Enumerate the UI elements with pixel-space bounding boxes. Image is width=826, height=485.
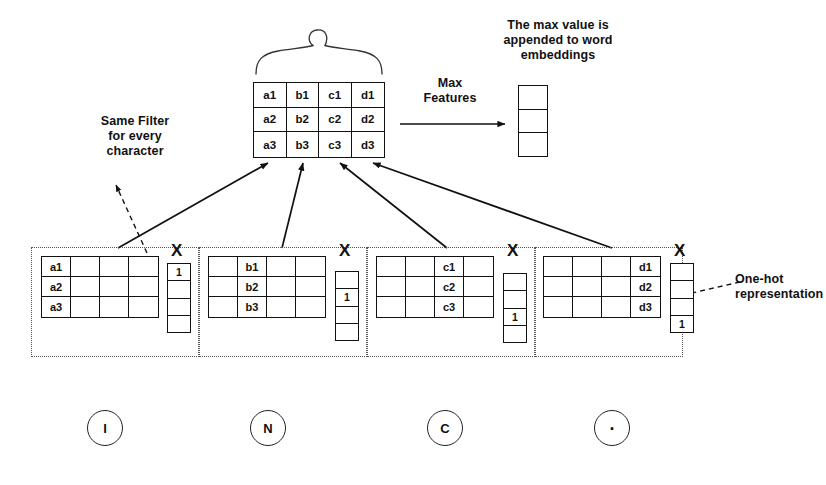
onehot-cell xyxy=(504,291,526,308)
group-3-onehot-vector: 1 xyxy=(503,273,527,343)
group-cell xyxy=(129,277,158,297)
group-cell xyxy=(573,277,602,297)
group-cell: c1 xyxy=(435,257,464,277)
group-cell xyxy=(602,257,631,277)
onehot-cell xyxy=(504,274,526,291)
onehot-cell xyxy=(168,299,190,316)
group-cell: b3 xyxy=(238,297,267,317)
onehot-cell xyxy=(671,281,693,298)
matrix-cell: b3 xyxy=(287,132,320,157)
same-filter-pointer xyxy=(116,185,147,253)
group-cell xyxy=(267,297,296,317)
char-circle-4: . xyxy=(594,410,630,446)
same-filter-label: Same Filter for every character xyxy=(60,114,210,159)
group-cell xyxy=(267,277,296,297)
group-cell xyxy=(129,257,158,277)
group-cell xyxy=(406,297,435,317)
curly-brace xyxy=(256,30,382,74)
group-cell: a1 xyxy=(42,257,71,277)
matrix-cell: c2 xyxy=(319,108,352,133)
group-cell xyxy=(544,257,573,277)
group-cell xyxy=(296,277,325,297)
arrow-group-4 xyxy=(373,163,612,248)
matrix-cell: d3 xyxy=(352,132,385,157)
group-cell xyxy=(406,277,435,297)
max-features-label: Max Features xyxy=(405,76,495,106)
group-3-matrix: c1 c2 c3 xyxy=(376,256,494,318)
one-hot-representation-label: One-hot representation xyxy=(735,272,826,302)
group-2-onehot-vector: 1 xyxy=(335,271,359,341)
connector-layer xyxy=(0,0,826,485)
group-cell: c3 xyxy=(435,297,464,317)
onehot-cell xyxy=(336,272,358,289)
group-cell: d1 xyxy=(631,257,660,277)
group-cell xyxy=(71,277,100,297)
onehot-cell xyxy=(168,281,190,298)
group-2-matrix: b1 b2 b3 xyxy=(208,256,326,318)
arrow-group-3 xyxy=(340,163,447,248)
group-cell xyxy=(100,257,129,277)
onehot-cell: 1 xyxy=(671,316,693,332)
group-cell: d3 xyxy=(631,297,660,317)
char-circle-3: C xyxy=(427,410,463,446)
matrix-cell: d2 xyxy=(352,108,385,133)
matrix-cell: b1 xyxy=(287,83,320,108)
group-cell: d2 xyxy=(631,277,660,297)
matrix-cell: b2 xyxy=(287,108,320,133)
group-1-matrix: a1 a2 a3 xyxy=(41,256,159,318)
group-cell xyxy=(100,277,129,297)
matrix-cell: a2 xyxy=(254,108,287,133)
onehot-cell xyxy=(671,264,693,281)
group-cell xyxy=(129,297,158,317)
onehot-cell xyxy=(168,316,190,332)
matrix-cell: a3 xyxy=(254,132,287,157)
matrix-cell: d1 xyxy=(352,83,385,108)
group-cell xyxy=(209,257,238,277)
arrow-group-2 xyxy=(282,163,303,248)
char-circle-1: I xyxy=(87,410,123,446)
group-4-multiply-symbol: X xyxy=(674,242,685,259)
group-1-onehot-vector: 1 xyxy=(167,263,191,333)
onehot-cell: 1 xyxy=(168,264,190,281)
matrix-cell: c3 xyxy=(319,132,352,157)
matrix-cell: c1 xyxy=(319,83,352,108)
group-cell xyxy=(602,277,631,297)
group-cell xyxy=(209,277,238,297)
group-to-matrix-arrows xyxy=(118,163,612,248)
group-1-multiply-symbol: X xyxy=(171,242,182,259)
matrix-cell: a1 xyxy=(254,83,287,108)
onehot-cell: 1 xyxy=(336,289,358,306)
group-cell xyxy=(377,277,406,297)
group-cell xyxy=(100,297,129,317)
arrow-group-1 xyxy=(118,163,268,248)
onehot-cell xyxy=(336,307,358,324)
group-4-matrix: d1 d2 d3 xyxy=(543,256,661,318)
max-value-appended-label: The max value is appended to word embedd… xyxy=(468,18,648,63)
group-cell xyxy=(377,257,406,277)
group-cell xyxy=(464,257,493,277)
group-cell xyxy=(464,297,493,317)
group-cell xyxy=(71,257,100,277)
char-circle-2: N xyxy=(250,410,286,446)
word-embedding-column xyxy=(518,85,548,157)
group-cell xyxy=(209,297,238,317)
group-cell xyxy=(296,297,325,317)
group-cell xyxy=(71,297,100,317)
group-cell: b1 xyxy=(238,257,267,277)
embedding-cell xyxy=(519,110,547,134)
group-cell: c2 xyxy=(435,277,464,297)
group-cell: a3 xyxy=(42,297,71,317)
diagram-canvas: a1 b1 c1 d1 a2 b2 c2 d2 a3 b3 c3 d3 Same… xyxy=(0,0,826,485)
group-cell xyxy=(544,297,573,317)
onehot-cell xyxy=(671,299,693,316)
group-cell xyxy=(464,277,493,297)
embedding-cell xyxy=(519,133,547,156)
group-4-onehot-vector: 1 xyxy=(670,263,694,333)
group-cell xyxy=(544,277,573,297)
onehot-cell xyxy=(336,324,358,340)
group-cell xyxy=(573,257,602,277)
onehot-cell xyxy=(504,326,526,342)
group-cell xyxy=(573,297,602,317)
group-cell: a2 xyxy=(42,277,71,297)
max-features-matrix: a1 b1 c1 d1 a2 b2 c2 d2 a3 b3 c3 d3 xyxy=(253,82,385,158)
